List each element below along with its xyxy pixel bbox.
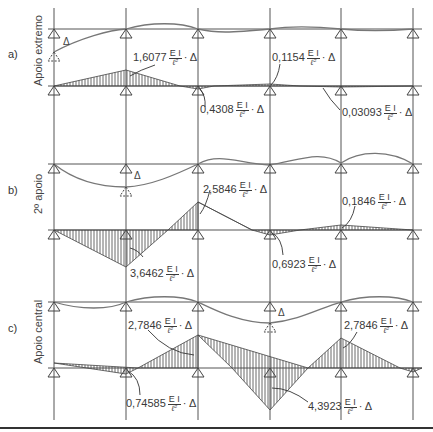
section-a-deflection-curve bbox=[54, 24, 413, 52]
moment-label: 0,1846E Iℓ²· Δ bbox=[342, 193, 406, 211]
section-a-moment-area bbox=[54, 70, 413, 89]
moment-label: 0,6923E Iℓ²· Δ bbox=[272, 256, 336, 274]
section-a-tag: a) bbox=[8, 48, 18, 60]
delta-marker-c: Δ bbox=[278, 307, 285, 318]
moment-label: 3,6462E Iℓ²· Δ bbox=[130, 265, 194, 283]
delta-marker-a: Δ bbox=[63, 36, 70, 47]
moment-label: 0,4308E Iℓ²· Δ bbox=[200, 101, 264, 119]
section-c-side-label: Apoio central bbox=[32, 300, 44, 364]
section-c-moment-area-3 bbox=[198, 335, 308, 410]
moment-label: 2,7846E Iℓ²· Δ bbox=[128, 317, 192, 335]
settlement-moment-diagram bbox=[0, 0, 433, 432]
section-c-moment-area-4 bbox=[308, 338, 400, 368]
section-c-tag: c) bbox=[8, 322, 17, 334]
moment-label: 2,5846E Iℓ²· Δ bbox=[203, 181, 267, 199]
moment-label: 0,03093E Iℓ²· Δ bbox=[342, 104, 412, 122]
moment-label: 2,7846E Iℓ²· Δ bbox=[344, 317, 408, 335]
section-a-supports-top bbox=[48, 29, 419, 61]
section-c-moment-area-2 bbox=[138, 335, 198, 368]
delta-marker-b: Δ bbox=[134, 170, 141, 181]
moment-label: 4,3923E Iℓ²· Δ bbox=[308, 398, 372, 416]
moment-label: 0,1154E Iℓ²· Δ bbox=[272, 49, 335, 67]
section-a-supports-bottom bbox=[48, 86, 419, 95]
moment-label: 0,74585E Iℓ²· Δ bbox=[126, 395, 196, 413]
moment-label: 1,6077E Iℓ²· Δ bbox=[133, 49, 197, 67]
section-b-side-label: 2º apoio bbox=[32, 174, 44, 214]
section-b-leaders bbox=[130, 190, 355, 257]
section-a-side-label: Apoio extremo bbox=[32, 15, 44, 86]
section-b-tag: b) bbox=[8, 184, 18, 196]
